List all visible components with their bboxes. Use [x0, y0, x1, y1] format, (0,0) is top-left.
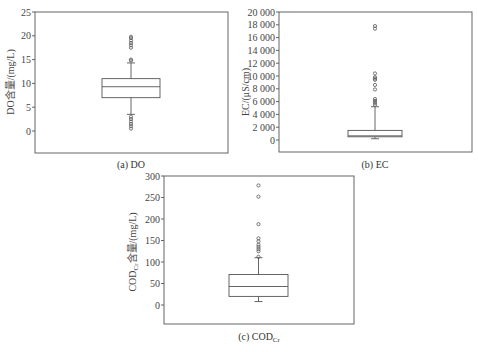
outlier-point — [257, 184, 260, 187]
y-axis-ticks: 0510152025 — [21, 7, 35, 137]
y-tick-label: 20 — [21, 30, 31, 41]
y-tick-label: 10 000 — [248, 71, 276, 82]
y-axis-label: EC/(μS/cm) — [240, 68, 252, 116]
y-tick-label: 4 000 — [253, 109, 276, 120]
y-tick-label: 50 — [150, 278, 160, 289]
y-axis-label: CODCr含量/(mg/L) — [126, 212, 140, 291]
y-tick-label: 250 — [145, 192, 160, 203]
y-tick-label: 0 — [26, 126, 31, 137]
y-tick-label: 18 000 — [248, 19, 276, 30]
y-tick-label: 5 — [26, 102, 31, 113]
subplot-caption: (a) DO — [117, 159, 145, 171]
outliers — [257, 184, 260, 259]
y-tick-label: 200 — [145, 214, 160, 225]
y-tick-label: 150 — [145, 235, 160, 246]
subplot-caption: (c) CODCr — [238, 331, 280, 344]
y-tick-label: 0 — [155, 300, 160, 311]
outlier-point — [257, 223, 260, 226]
outlier-point — [257, 243, 260, 246]
y-tick-label: 20 000 — [248, 7, 276, 18]
y-tick-label: 2 000 — [253, 122, 276, 133]
boxplot-do: 0510152025DO含量/(mg/L)(a) DO — [4, 7, 228, 172]
y-tick-label: 8 000 — [253, 83, 276, 94]
y-tick-label: 100 — [145, 257, 160, 268]
y-tick-label: 25 — [21, 7, 31, 18]
outlier-point — [373, 72, 376, 75]
y-tick-label: 6 000 — [253, 96, 276, 107]
y-tick-label: 0 — [270, 135, 275, 146]
boxplot-figure: 0510152025DO含量/(mg/L)(a) DO02 0004 0006 … — [0, 0, 478, 352]
outliers — [373, 24, 376, 106]
y-tick-label: 10 — [21, 78, 31, 89]
boxplot-cod: 050100150200250300CODCr含量/(mg/L)(c) CODC… — [126, 171, 354, 345]
subplot-caption: (b) EC — [362, 159, 389, 171]
iqr-box — [229, 274, 288, 296]
y-tick-label: 12 000 — [248, 58, 276, 69]
outlier-point — [373, 88, 376, 91]
y-axis-label: DO含量/(mg/L) — [4, 49, 17, 115]
boxplot-ec: 02 0004 0006 0008 00010 00012 00014 0001… — [240, 7, 472, 172]
outlier-point — [373, 83, 376, 86]
y-tick-label: 300 — [145, 171, 160, 182]
y-axis-ticks: 02 0004 0006 0008 00010 00012 00014 0001… — [248, 7, 280, 146]
y-tick-label: 15 — [21, 54, 31, 65]
y-tick-label: 14 000 — [248, 45, 276, 56]
y-axis-ticks: 050100150200250300 — [145, 171, 164, 311]
iqr-box — [102, 79, 160, 98]
y-tick-label: 16 000 — [248, 32, 276, 43]
outlier-point — [257, 195, 260, 198]
